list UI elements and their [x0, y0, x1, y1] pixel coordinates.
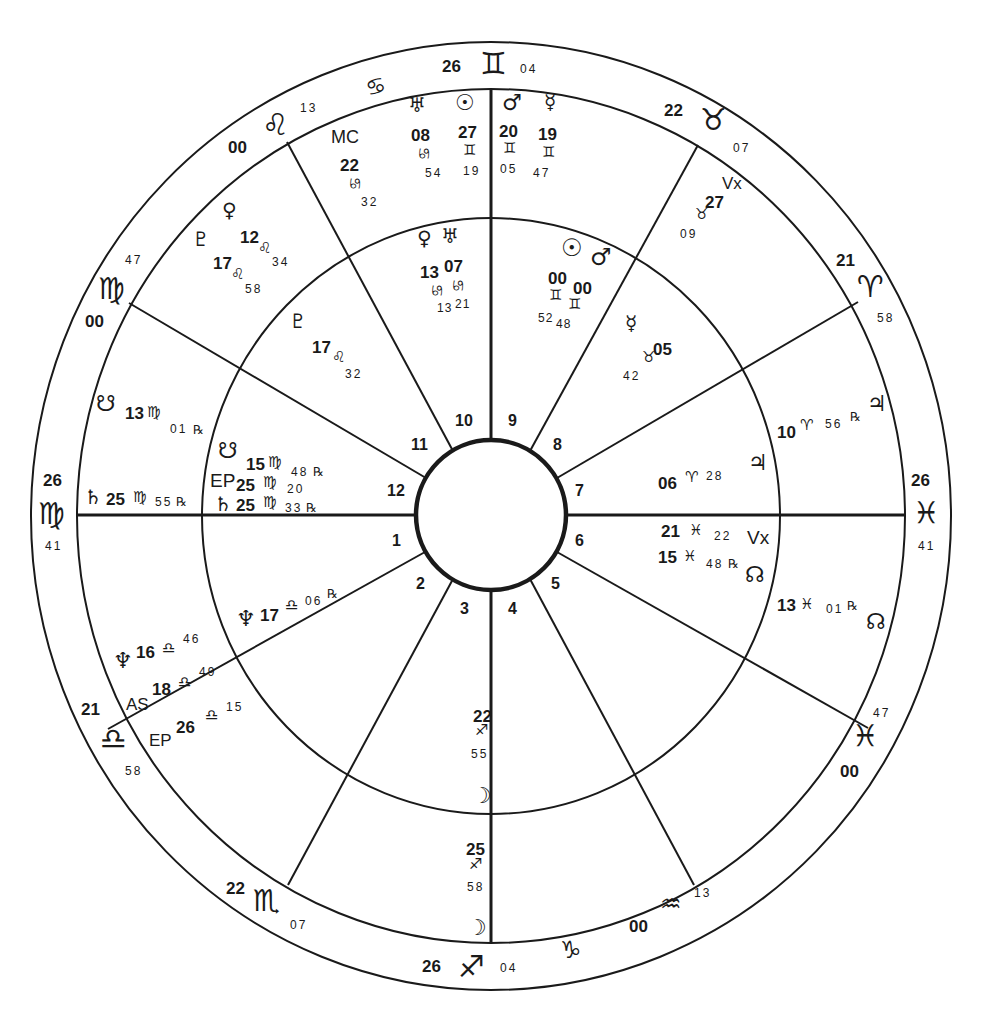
saturn-outer-retrograde: ℞	[176, 496, 187, 508]
jupiter-inner-icon: ♃	[748, 452, 768, 474]
cusp2-minutes: 58	[125, 765, 142, 777]
cusp12-minutes: 47	[125, 254, 142, 266]
snode-inner-retrograde: ℞	[313, 466, 324, 478]
north-node-inner-icon: ☊	[745, 564, 765, 586]
nnode-outer-retrograde: ℞	[847, 600, 858, 612]
pluto-outer-minutes: 58	[245, 283, 262, 295]
cusp4-minutes: 04	[500, 962, 517, 974]
midheaven-degree: 22	[340, 157, 359, 174]
midheaven-minutes: 32	[361, 196, 378, 208]
nnode-outer-degree: 13	[777, 597, 796, 614]
saturn-inner-retrograde: ℞	[306, 502, 317, 514]
neptune-inner-minutes: 06	[305, 595, 322, 607]
venus-inner-degree: 13	[420, 264, 439, 281]
moon-outer-sign: ♐	[469, 857, 482, 872]
cusp-line-9-8-edge	[557, 302, 858, 478]
pluto-inner-sign: ♌	[332, 350, 345, 365]
cusp-line-6	[557, 552, 868, 728]
cusp9-degree: 22	[664, 102, 683, 119]
taurus-icon: ♉	[700, 105, 727, 135]
scorpio-icon: ♏	[253, 886, 280, 916]
mercury-outer-icon: ☿	[544, 92, 556, 112]
sun-outer-sign: ♊	[463, 143, 476, 158]
house-number-6: 6	[575, 533, 584, 549]
sun-inner-sign: ♊	[549, 288, 562, 303]
vertex-outer-label: Vx	[722, 175, 742, 192]
nnode-outer-sign: ♓	[800, 597, 813, 612]
venus-outer-minutes: 34	[272, 256, 289, 268]
house-number-5: 5	[551, 576, 560, 592]
cusp10-degree: 26	[442, 58, 461, 75]
nnode-outer-minutes: 01	[826, 603, 843, 615]
sun-outer-minutes: 19	[463, 165, 480, 177]
nnode-inner-degree: 15	[658, 549, 677, 566]
house-number-10: 10	[455, 413, 473, 429]
snode-inner-sign: ♍	[268, 455, 281, 470]
house-number-1: 1	[392, 533, 401, 549]
vertex-outer-sign: ♉	[695, 207, 708, 222]
sun-outer-degree: 27	[458, 124, 477, 141]
east-point-outer-minutes: 15	[226, 701, 243, 713]
sun-inner-degree: 00	[548, 270, 567, 287]
north-node-outer-icon: ☊	[866, 611, 886, 633]
cusp-line-5	[530, 579, 694, 885]
saturn-inner-degree: 25	[236, 497, 255, 514]
uranus-outer-minutes: 54	[425, 167, 442, 179]
capricorn-intercepted-icon: ♑	[560, 938, 582, 962]
ascendant-label: AS	[126, 696, 149, 713]
saturn-inner-sign: ♍	[263, 495, 276, 510]
east-point-inner-label: EP	[210, 471, 235, 490]
mercury-outer-degree: 19	[538, 126, 557, 143]
sagittarius-icon: ♐	[458, 952, 485, 982]
vertex-inner-sign: ♓	[689, 523, 702, 538]
cusp11-degree: 00	[228, 139, 247, 156]
jupiter-outer-sign: ♈	[800, 418, 813, 433]
house-number-4: 4	[508, 601, 517, 617]
moon-outer-icon: ☽	[467, 917, 487, 939]
neptune-inner-retrograde: ℞	[327, 588, 338, 600]
mars-inner-sign: ♊	[568, 297, 581, 312]
snode-outer-sign: ♍	[147, 405, 160, 420]
mars-inner-icon: ♂	[590, 245, 612, 269]
ascendant-sign: ♎	[178, 675, 191, 690]
uranus-inner-degree: 07	[444, 258, 463, 275]
mercury-outer-minutes: 47	[533, 167, 550, 179]
neptune-outer-sign: ♎	[162, 641, 175, 656]
sun-outer-icon: ☉	[455, 92, 475, 114]
ascendant-degree: 18	[152, 681, 171, 698]
uranus-outer-icon: ♅	[408, 95, 426, 115]
jupiter-inner-sign: ♈	[685, 470, 698, 485]
neptune-inner-icon: ♆	[236, 608, 256, 630]
pluto-inner-degree: 17	[312, 339, 331, 356]
pluto-outer-icon: ♇	[192, 229, 210, 249]
neptune-inner-sign: ♎	[285, 598, 298, 613]
pluto-outer-degree: 17	[213, 255, 232, 272]
cusp11-minutes: 13	[300, 102, 317, 114]
house-number-2: 2	[416, 576, 425, 592]
cusp-line-3	[288, 579, 453, 885]
neptune-outer-degree: 16	[136, 644, 155, 661]
pluto-outer-sign: ♌	[231, 267, 244, 282]
neptune-outer-icon: ♆	[113, 650, 133, 672]
cusp7-minutes: 41	[918, 540, 935, 552]
house-number-7: 7	[575, 483, 584, 499]
mercury-inner-degree: 05	[653, 341, 672, 358]
house-number-9: 9	[508, 413, 517, 429]
pisces-desc-icon: ♓	[913, 498, 940, 528]
center-hub	[416, 440, 566, 590]
east-point-outer-label: EP	[149, 732, 172, 749]
vertex-outer-minutes: 09	[680, 228, 697, 240]
aquarius-icon: ♒	[660, 892, 682, 916]
cusp6-degree: 00	[840, 763, 859, 780]
venus-inner-icon: ♀	[417, 228, 432, 248]
moon-inner-minutes: 55	[471, 748, 488, 760]
ep-inner-minutes: 20	[287, 483, 304, 495]
saturn-outer-degree: 25	[106, 491, 125, 508]
pluto-inner-icon: ♇	[289, 311, 307, 331]
mars-outer-sign: ♊	[503, 141, 516, 156]
mercury-outer-sign: ♊	[542, 145, 555, 160]
neptune-outer-minutes: 46	[183, 633, 200, 645]
nnode-inner-retrograde: ℞	[728, 558, 739, 570]
cusp7-degree: 26	[911, 472, 930, 489]
saturn-outer-icon: ♄	[84, 487, 102, 507]
